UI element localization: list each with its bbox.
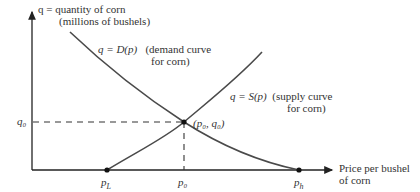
pL-tick-label: pL (101, 176, 111, 192)
supply-label: q = S(p) (supply curve for corn) (230, 90, 332, 114)
ph-tick-label: ph (294, 176, 304, 192)
pL-point (104, 167, 109, 172)
p0-tick-label: p₀ (178, 176, 187, 188)
q0-tick-label: q₀ (17, 115, 26, 127)
demand-label: q = D(p) (demand curve for corn) (98, 43, 211, 67)
ph-point (296, 167, 301, 172)
equilibrium-label: (p₀, q₀) (193, 117, 224, 129)
x-axis-label: Price per bushel of corn (339, 162, 410, 186)
equilibrium-point (181, 119, 186, 124)
y-axis-label: q = quantity of corn (millions of bushel… (38, 3, 150, 27)
